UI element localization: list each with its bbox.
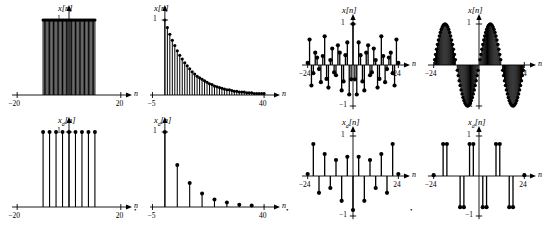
y-tick-label-panel-6-0: 1 xyxy=(153,127,157,135)
plot-title-panel-1: x[n] xyxy=(58,4,73,13)
x-tick-label-panel-6-1: 40 xyxy=(259,212,267,220)
y-tick-label-panel-7-1: −1 xyxy=(339,211,347,219)
x-tick-label-panel-2-1: 40 xyxy=(259,100,267,108)
x-tick-label-panel-4-1: 24 xyxy=(519,70,527,78)
x-axis-label-panel-3: n xyxy=(412,60,416,68)
x-axis-arrow xyxy=(126,92,132,97)
x-axis-arrow xyxy=(404,173,410,178)
stem-plot-panel-4: x[n]1−1−2424n xyxy=(418,6,546,112)
plot-title-panel-4: x[n] xyxy=(468,6,483,15)
x-tick-label-panel-7-1: 24 xyxy=(393,181,401,189)
y-tick-label-panel-5-0: 1 xyxy=(57,127,61,135)
x-tick-label-panel-8-0: −24 xyxy=(425,181,437,189)
stem-plot-panel-6: xd[n]1−540n xyxy=(140,116,290,224)
panel-separator-mark: • xyxy=(134,206,136,214)
x-axis-label-panel-1: n xyxy=(134,90,138,98)
stem-series xyxy=(41,130,97,207)
stem-plot-panel-2: x[n]1−540n xyxy=(140,4,290,112)
x-axis-label-panel-7: n xyxy=(412,171,416,179)
x-axis-arrow xyxy=(530,173,536,178)
x-axis-arrow xyxy=(126,204,132,209)
y-tick-label-panel-7-0: 1 xyxy=(341,131,345,139)
figure-root: x[n]1−2020nx[n]1−540nx[n]1−1−2424nx[n]1−… xyxy=(0,0,548,226)
x-tick-label-panel-6-0: −5 xyxy=(147,212,155,220)
stem-plot-panel-7: xd[n]1−1−2424n xyxy=(292,118,420,222)
x-axis-arrow xyxy=(530,62,536,67)
plot-title-panel-8: xd[n] xyxy=(468,118,486,129)
stem-plot-panel-5: xd[n]1−2020n xyxy=(2,116,142,224)
panel-separator-mark: • xyxy=(410,206,412,214)
stem-series xyxy=(41,18,96,95)
plot-title-panel-7: xd[n] xyxy=(342,118,360,129)
x-tick-label-panel-2-0: −5 xyxy=(147,100,155,108)
x-tick-label-panel-5-0: −20 xyxy=(8,212,20,220)
stem-plot-panel-1: x[n]1−2020n xyxy=(2,4,142,112)
x-tick-label-panel-7-0: −24 xyxy=(299,181,311,189)
y-tick-label-panel-4-1: −1 xyxy=(465,101,473,109)
plot-title-panel-3: x[n] xyxy=(342,6,357,15)
y-tick-label-panel-8-1: −1 xyxy=(465,211,473,219)
stem-series xyxy=(163,18,265,95)
stem-series xyxy=(163,130,264,208)
x-axis-arrow xyxy=(274,204,280,209)
plot-title-panel-2: x[n] xyxy=(154,4,169,13)
x-axis-arrow xyxy=(404,62,410,67)
y-tick-label-panel-3-1: −1 xyxy=(339,101,347,109)
panel-separator-mark: • xyxy=(286,206,288,214)
y-tick-label-panel-2-0: 1 xyxy=(153,15,157,23)
x-tick-label-panel-1-1: 20 xyxy=(116,100,124,108)
stem-plot-panel-8: xd[n]1−1−2424n xyxy=(418,118,546,222)
x-tick-label-panel-4-0: −24 xyxy=(425,70,437,78)
y-tick-label-panel-3-0: 1 xyxy=(341,19,345,27)
stem-plot-panel-3: x[n]1−1−2424n xyxy=(292,6,420,112)
y-tick-label-panel-1-0: 1 xyxy=(57,15,61,23)
x-axis-label-panel-2: n xyxy=(282,90,286,98)
x-tick-label-panel-8-1: 24 xyxy=(519,181,527,189)
x-axis-arrow xyxy=(274,92,280,97)
y-tick-label-panel-8-0: 1 xyxy=(467,131,471,139)
y-tick-label-panel-4-0: 1 xyxy=(467,19,471,27)
x-tick-label-panel-3-1: 24 xyxy=(393,70,401,78)
x-tick-label-panel-1-0: −20 xyxy=(8,100,20,108)
x-tick-label-panel-5-1: 20 xyxy=(116,212,124,220)
x-axis-label-panel-8: n xyxy=(538,171,542,179)
x-tick-label-panel-3-0: −24 xyxy=(299,70,311,78)
x-axis-label-panel-4: n xyxy=(538,60,542,68)
